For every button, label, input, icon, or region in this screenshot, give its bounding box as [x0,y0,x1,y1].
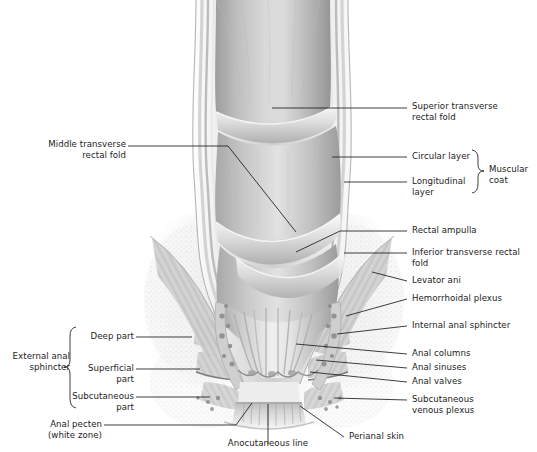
label-superior-transverse-rectal-fold: Superior transverse rectal fold [412,101,532,122]
label-superficial-part: Superficial part [76,363,134,384]
label-subcutaneous-part: Subcutaneous part [66,391,134,412]
label-circular-layer: Circular layer [412,151,482,162]
rectal-lumen [215,0,345,378]
label-inferior-transverse-rectal-fold: Inferior transverse rectal fold [412,247,537,268]
label-internal-anal-sphincter: Internal anal sphincter [412,320,536,331]
label-muscular-coat: Muscular coat [489,164,537,185]
label-levator-ani: Levator ani [412,275,532,286]
label-anal-sinuses: Anal sinuses [412,362,522,373]
label-external-anal-sphincter: External anal sphincter [2,351,70,372]
label-subcutaneous-venous-plexus: Subcutaneous venous plexus [412,394,524,415]
label-hemorrhoidal-plexus: Hemorrhoidal plexus [412,293,534,304]
label-anal-valves: Anal valves [412,376,522,387]
label-perianal-skin: Perianal skin [349,431,439,442]
label-rectal-ampulla: Rectal ampulla [412,225,532,236]
label-anocutaneous-line: Anocutaneous line [208,438,328,449]
label-longitudinal-layer: Longitudinal layer [412,176,478,197]
label-anal-columns: Anal columns [412,348,522,359]
label-anal-pecten: Anal pecten (white zone) [20,419,102,440]
anatomical-figure: Superior transverse rectal fold Circular… [0,0,537,452]
label-deep-part: Deep part [78,331,134,342]
label-middle-transverse-rectal-fold: Middle transverse rectal fold [8,139,126,160]
